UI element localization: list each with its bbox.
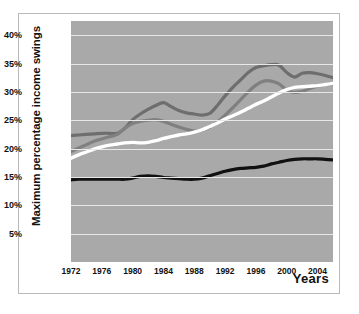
- x-tick-label: 1980: [123, 266, 142, 276]
- chart-figure: Maximum percentage income swings 5%10%15…: [18, 13, 340, 294]
- gridline: [71, 205, 333, 206]
- x-tick-label: 1988: [185, 266, 204, 276]
- gridline: [71, 177, 333, 178]
- gridline: [71, 149, 333, 150]
- x-tick-label: 1996: [246, 266, 265, 276]
- y-axis-title: Maximum percentage income swings: [30, 21, 46, 231]
- gridline: [71, 64, 333, 65]
- y-tick-label: 35%: [0, 59, 22, 69]
- series-lines: [71, 21, 333, 262]
- plot-area: [71, 21, 333, 262]
- x-tick-label: 1984: [154, 266, 173, 276]
- x-tick-label: 1992: [216, 266, 235, 276]
- y-tick-label: 20%: [0, 144, 22, 154]
- gridline: [71, 92, 333, 93]
- y-tick-label: 10%: [0, 200, 22, 210]
- gridline: [71, 234, 333, 235]
- gridline: [71, 35, 333, 36]
- y-tick-label: 25%: [0, 115, 22, 125]
- y-tick-label: 30%: [0, 87, 22, 97]
- y-tick-label: 15%: [0, 172, 22, 182]
- y-tick-label: 40%: [0, 30, 22, 40]
- x-tick-label: 1976: [92, 266, 111, 276]
- x-tick-label: 1972: [62, 266, 81, 276]
- x-axis-title: Years: [293, 271, 329, 286]
- y-tick-label: 5%: [0, 229, 22, 239]
- dark-gray-series: [71, 64, 333, 135]
- gridline: [71, 120, 333, 121]
